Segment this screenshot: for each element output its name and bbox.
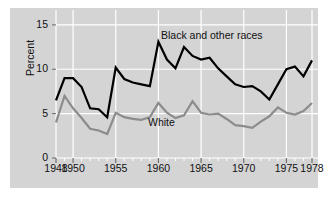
- x-tick-label-1978: 1978: [292, 162, 330, 174]
- data-lines: [56, 42, 312, 134]
- y-tick-label-5: 5: [26, 107, 48, 119]
- series-line-white: [56, 96, 312, 134]
- series-label-black-and-other-races: Black and other races: [161, 29, 263, 41]
- x-tick-label-1950: 1950: [53, 162, 93, 174]
- x-tick-label-1955: 1955: [96, 162, 136, 174]
- x-tick-label-1965: 1965: [181, 162, 221, 174]
- y-axis-title: Percent: [24, 27, 36, 89]
- series-line-black-and-other-races: [56, 42, 312, 117]
- chart-figure: Percent 051015 1948195019551960196519701…: [0, 0, 330, 197]
- y-tick-label-10: 10: [26, 62, 48, 74]
- x-tick-label-1970: 1970: [224, 162, 264, 174]
- series-label-white: White: [148, 116, 175, 128]
- x-tick-label-1960: 1960: [138, 162, 178, 174]
- y-tick-label-15: 15: [26, 18, 48, 30]
